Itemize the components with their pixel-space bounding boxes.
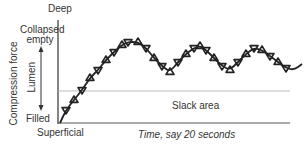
label-empty: empty	[20, 35, 60, 45]
y-axis-title: Compression force	[8, 39, 19, 129]
label-superficial: Superficial	[37, 128, 84, 138]
label-deep: Deep	[48, 4, 72, 14]
arrow-up-icon	[39, 46, 44, 52]
label-lumen: Lumen	[26, 63, 37, 93]
x-axis-title: Time, say 20 seconds	[138, 130, 235, 140]
label-slack-area: Slack area	[172, 101, 219, 111]
label-collapsed-empty: Collapsed empty	[20, 25, 60, 45]
diagram-canvas	[0, 0, 305, 146]
arrow-down-icon	[39, 105, 44, 111]
label-filled: Filled	[26, 114, 50, 124]
